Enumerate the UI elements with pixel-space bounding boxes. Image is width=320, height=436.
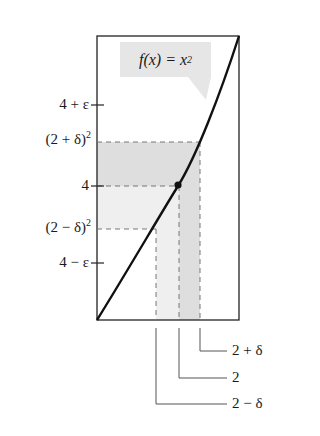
x-label-2-minus-delta: 2 − δ xyxy=(232,395,263,411)
x-label-2: 2 xyxy=(232,369,240,385)
x-band-right xyxy=(179,142,200,320)
x-label-2-plus-delta: 2 + δ xyxy=(232,342,263,358)
x-leader-lines xyxy=(156,328,227,404)
callout-tail xyxy=(188,77,211,100)
y-label-4-plus-eps: 4 + ε xyxy=(59,96,89,112)
function-label: f(x) = x xyxy=(139,51,187,69)
point-2-4 xyxy=(174,181,181,188)
x-band-left xyxy=(156,186,179,320)
y-label-4: 4 xyxy=(82,177,90,193)
y-label-4-minus-eps: 4 − ε xyxy=(59,254,89,270)
y-label-2-plus-delta-sq: (2 + δ)2 xyxy=(45,131,91,147)
y-label-2-minus-delta-sq: (2 − δ)2 xyxy=(45,219,91,235)
function-label-callout: f(x) = x2 xyxy=(120,42,211,77)
